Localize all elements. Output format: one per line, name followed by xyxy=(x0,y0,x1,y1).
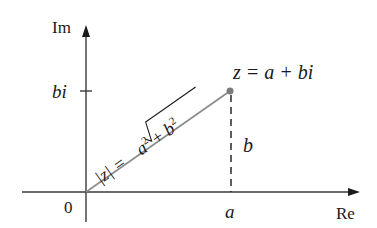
point-z-label: z = a + bi xyxy=(233,62,313,82)
real-axis-arrow-icon xyxy=(348,188,360,196)
imaginary-axis-label: Im xyxy=(52,19,71,36)
origin-label: 0 xyxy=(64,199,73,216)
imaginary-axis-arrow-icon xyxy=(82,25,90,37)
point-z xyxy=(227,88,234,95)
imaginary-part-label: b xyxy=(243,135,253,155)
real-axis-label: Re xyxy=(336,205,355,222)
a-tick-label: a xyxy=(225,202,235,221)
bi-tick-label: bi xyxy=(52,82,67,101)
